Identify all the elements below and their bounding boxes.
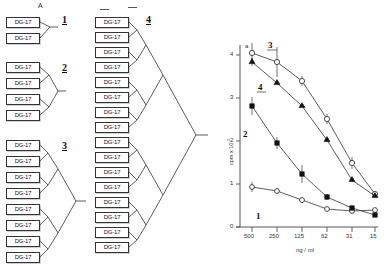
x-axis-title: ng / ml: [296, 247, 314, 253]
axis-top-marker: a: [245, 43, 249, 49]
figure-canvas: A 1 2 3 4 DG-17 DG-17 DG-17 DG-17 DG-17 …: [0, 0, 384, 266]
series-1: 1: [250, 182, 378, 221]
y-axis-title-exponent: -3: [226, 139, 231, 143]
x-tick-label-62: 62: [321, 233, 328, 239]
series-2: 2: [243, 97, 377, 217]
y-tick-label-1: 1: [230, 180, 233, 186]
x-tick-label-15: 15: [370, 233, 377, 239]
series-4-label: 4: [258, 82, 263, 92]
x-tick-label-500: 500: [244, 233, 254, 239]
y-tick-label-0: 0: [230, 223, 233, 229]
y-tick-label-3: 3: [230, 94, 233, 100]
series-3-label: 3: [268, 40, 273, 50]
dose-response-chart: a 1 2: [0, 0, 384, 266]
x-tick-label-250: 250: [269, 233, 279, 239]
series-2-label: 2: [243, 129, 248, 139]
y-axis-title-text: cpm x 10: [228, 143, 234, 165]
x-tick-label-31: 31: [346, 233, 353, 239]
x-tick-label-125: 125: [294, 233, 304, 239]
y-tick-marks: [236, 55, 240, 227]
x-tick-marks: [252, 227, 375, 232]
y-tick-label-4: 4: [230, 51, 233, 57]
series-3: 3: [249, 40, 377, 197]
series-4: 4: [249, 58, 378, 198]
series-1-label: 1: [256, 211, 261, 221]
y-axis-title: cpm x 10-3: [226, 139, 234, 165]
